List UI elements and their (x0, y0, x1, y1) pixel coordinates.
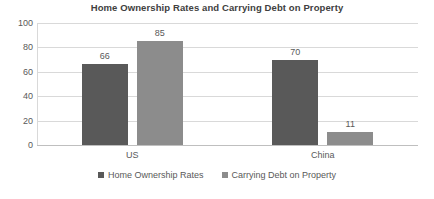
bar (82, 64, 128, 145)
bar-value-label: 70 (290, 47, 300, 57)
gridline (37, 47, 418, 48)
chart-title: Home Ownership Rates and Carrying Debt o… (0, 2, 434, 13)
axis-baseline (37, 145, 418, 146)
plot-area (37, 23, 418, 145)
legend-swatch-icon (98, 172, 104, 178)
gridline (37, 23, 418, 24)
y-axis: 100806040200 (0, 23, 33, 145)
bar-chart: Home Ownership Rates and Carrying Debt o… (0, 0, 434, 199)
legend-swatch-icon (222, 172, 228, 178)
bar (137, 41, 183, 145)
legend-label: Carrying Debt on Property (232, 170, 337, 180)
chart-legend: Home Ownership RatesCarrying Debt on Pro… (0, 170, 434, 180)
legend-label: Home Ownership Rates (108, 170, 204, 180)
category-label: US (126, 150, 139, 160)
legend-item[interactable]: Carrying Debt on Property (222, 170, 337, 180)
bar-value-label: 66 (100, 51, 110, 61)
y-axis-tick-label: 20 (0, 116, 33, 126)
y-axis-tick-label: 60 (0, 67, 33, 77)
y-axis-tick-label: 0 (0, 140, 33, 150)
bar-value-label: 85 (155, 28, 165, 38)
bar-value-label: 11 (346, 119, 355, 129)
category-label: China (311, 150, 335, 160)
bar (272, 60, 318, 145)
bar (327, 132, 373, 145)
y-axis-tick-label: 40 (0, 91, 33, 101)
legend-item[interactable]: Home Ownership Rates (98, 170, 204, 180)
y-axis-tick-label: 80 (0, 42, 33, 52)
y-axis-tick-label: 100 (0, 18, 33, 28)
